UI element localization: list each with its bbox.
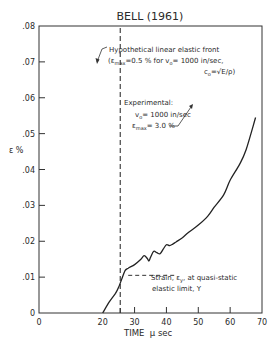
x-tick-label: 20: [98, 318, 108, 327]
svg-text:εmax= 3.0 %: εmax= 3.0 %: [132, 122, 175, 131]
y-tick-label: .03: [22, 201, 35, 210]
x-tick-label: 50: [193, 318, 203, 327]
y-tick-label: .02: [22, 237, 35, 246]
y-tick-label: .04: [22, 166, 35, 175]
experimental-curve: [103, 118, 256, 314]
svg-text:Hypothetical linear elastic fr: Hypothetical linear elastic front: [109, 46, 220, 54]
x-axis: 0203040506070: [36, 307, 267, 327]
annotation-yield-strain: Strain, εy, at quasi-static elastic limi…: [151, 274, 237, 293]
svg-text:(εmax=0.5 % for vo= 1000 in/se: (εmax=0.5 % for vo= 1000 in/sec,: [108, 57, 223, 66]
x-axis-label: TIME μ sec: [123, 328, 173, 338]
svg-text:elastic limit, Y: elastic limit, Y: [152, 285, 202, 293]
svg-text:Experimental:: Experimental:: [124, 99, 173, 107]
y-axis: 0.01.02.03.04.05.06.07.08: [22, 22, 45, 318]
y-tick-label: .01: [22, 273, 35, 282]
svg-text:Strain, εy, at quasi-static: Strain, εy, at quasi-static: [151, 274, 237, 284]
svg-text:co=√E/ρ): co=√E/ρ): [204, 68, 235, 77]
chart: BELL (1961) 0.01.02.03.04.05.06.07.08 02…: [0, 0, 277, 344]
x-tick-label: 70: [257, 318, 267, 327]
chart-title: BELL (1961): [117, 10, 184, 23]
y-tick-label: .07: [22, 58, 35, 67]
y-tick-label: .06: [22, 94, 35, 103]
x-tick-label: 60: [225, 318, 235, 327]
y-tick-label: .05: [22, 130, 35, 139]
y-tick-label: .08: [22, 22, 35, 31]
x-tick-label: 40: [161, 318, 171, 327]
annotation-experimental: Experimental: vo= 1000 in/sec εmax= 3.0 …: [124, 99, 193, 131]
x-tick-label: 30: [129, 318, 139, 327]
y-axis-label: ε %: [9, 146, 24, 155]
annotation-elastic-front: Hypothetical linear elastic front (εmax=…: [96, 46, 236, 77]
x-tick-label: 0: [36, 318, 41, 327]
y-tick-label: 0: [30, 309, 35, 318]
